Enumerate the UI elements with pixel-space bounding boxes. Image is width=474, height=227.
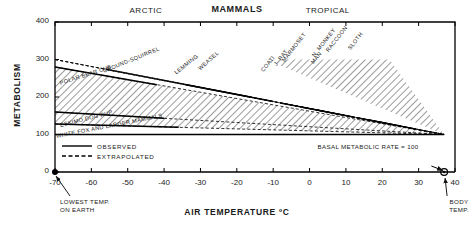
xtick-10: 10 <box>335 178 357 187</box>
ytick-100: 100 <box>19 129 49 138</box>
xtick--50: -50 <box>117 178 139 187</box>
xtick-40: 40 <box>444 178 466 187</box>
xtick--10: -10 <box>262 178 284 187</box>
xtick--20: -20 <box>226 178 248 187</box>
xtick--70: -70 <box>44 178 66 187</box>
species-label-lemming: LEMMING <box>173 53 199 75</box>
annotation-body-temp: BODY TEMP. <box>442 198 474 214</box>
baseline-label: BASAL METABOLIC RATE = 100 <box>318 143 419 150</box>
annotation-lowest-temp: LOWEST TEMP. ON EARTH <box>60 198 110 214</box>
legend-label-solid: OBSERVED <box>97 143 137 150</box>
species-label-ground-squirrel: GROUND-SQUIRREL <box>102 46 160 74</box>
species-label-white-fox-and-larger-mammals: WHITE FOX AND LARGER MAMMALS <box>55 112 162 139</box>
xtick--30: -30 <box>189 178 211 187</box>
ytick-300: 300 <box>19 54 49 63</box>
ytick-0: 0 <box>19 166 49 175</box>
chart-title: MAMMALS <box>0 4 474 14</box>
xtick--40: -40 <box>153 178 175 187</box>
ytick-400: 400 <box>19 16 49 25</box>
xtick-0: 0 <box>299 178 321 187</box>
species-label-sloth: SLOTH <box>347 31 364 51</box>
metabolism-chart: -70-60-50-40-30-20-100102030400100200300… <box>0 0 474 227</box>
xtick-20: 20 <box>371 178 393 187</box>
species-label-weasel: WEASEL <box>197 50 220 71</box>
region-label-arctic: ARCTIC <box>116 6 176 15</box>
legend-label-dashed: EXTRAPOLATED <box>97 153 154 160</box>
species-label-marmoset: MARMOSET <box>281 31 307 62</box>
ytick-200: 200 <box>19 91 49 100</box>
xtick-30: 30 <box>408 178 430 187</box>
y-axis-title: METABOLISM <box>12 45 22 145</box>
region-label-tropical: TROPICAL <box>294 6 362 15</box>
xtick--60: -60 <box>80 178 102 187</box>
